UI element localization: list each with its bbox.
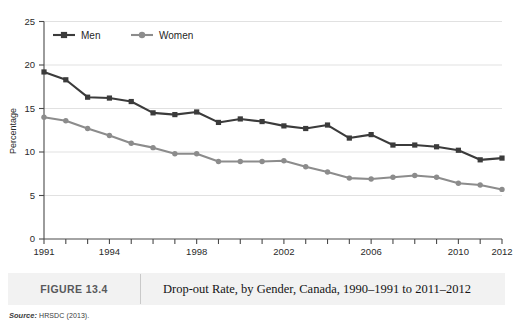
figure-caption-bar: FIGURE 13.4 Drop-out Rate, by Gender, Ca…: [8, 273, 505, 305]
data-point-men: [194, 109, 199, 114]
data-point-men: [325, 122, 330, 127]
data-point-men: [85, 95, 90, 100]
gridlines-group: [44, 22, 502, 196]
data-point-men: [369, 132, 374, 137]
data-point-women: [325, 169, 330, 174]
chart-canvas: 1991199419982002200620102012 0510152025 …: [0, 0, 513, 262]
data-point-women: [238, 159, 243, 164]
data-point-women: [41, 115, 46, 120]
series-group: [41, 69, 504, 192]
data-point-men: [478, 157, 483, 162]
line-chart: 1991199419982002200620102012 0510152025 …: [0, 0, 513, 262]
data-point-men: [390, 142, 395, 147]
data-point-women: [347, 175, 352, 180]
data-point-women: [150, 145, 155, 150]
data-point-women: [434, 175, 439, 180]
legend-label-women: Women: [159, 30, 193, 41]
figure-number-label: FIGURE 13.4: [8, 283, 140, 295]
x-tick-label: 1994: [99, 246, 120, 257]
data-point-men: [150, 110, 155, 115]
source-note: Source: HRSDC (2013).: [9, 311, 89, 320]
y-tick-label: 20: [24, 59, 35, 70]
legend-marker-women: [139, 32, 145, 38]
data-point-men: [456, 148, 461, 153]
data-point-women: [129, 141, 134, 146]
data-point-women: [107, 133, 112, 138]
data-point-women: [303, 164, 308, 169]
data-point-women: [368, 176, 373, 181]
x-tick-label: 2006: [361, 246, 382, 257]
data-point-women: [63, 118, 68, 123]
x-tick-label: 1998: [186, 246, 207, 257]
data-point-men: [238, 116, 243, 121]
source-label: Source:: [9, 311, 37, 320]
data-point-women: [194, 151, 199, 156]
data-point-women: [85, 126, 90, 131]
data-point-men: [347, 135, 352, 140]
data-point-men: [216, 120, 221, 125]
x-tick-label: 2010: [448, 246, 469, 257]
y-tick-label: 5: [30, 190, 35, 201]
y-tick-label: 10: [24, 146, 35, 157]
data-point-women: [390, 175, 395, 180]
data-point-women: [281, 158, 286, 163]
x-tick-label: 1991: [33, 246, 54, 257]
data-point-men: [412, 142, 417, 147]
axes-group: [44, 22, 502, 240]
data-point-men: [63, 77, 68, 82]
legend-marker-men: [61, 32, 67, 38]
chart-legend: MenWomen: [53, 30, 193, 41]
data-point-men: [303, 126, 308, 131]
data-point-men: [281, 123, 286, 128]
series-line-men: [44, 72, 502, 160]
figure-container: 1991199419982002200620102012 0510152025 …: [0, 0, 513, 330]
y-tick-label: 25: [24, 16, 35, 27]
data-point-women: [259, 159, 264, 164]
data-point-men: [172, 112, 177, 117]
series-line-women: [44, 117, 502, 189]
data-point-men: [259, 119, 264, 124]
data-point-men: [499, 155, 504, 160]
source-value: HRSDC (2013).: [39, 312, 89, 319]
data-point-women: [216, 159, 221, 164]
y-tick-label: 15: [24, 103, 35, 114]
x-tick-label: 2012: [491, 246, 512, 257]
figure-caption-text: Drop-out Rate, by Gender, Canada, 1990–1…: [141, 282, 505, 297]
y-tick-label: 0: [30, 233, 35, 244]
data-point-men: [107, 95, 112, 100]
data-point-women: [172, 151, 177, 156]
y-tick-group: 0510152025: [24, 16, 44, 245]
x-tick-group: 1991199419982002200620102012: [33, 239, 512, 257]
data-point-men: [129, 99, 134, 104]
data-point-women: [499, 187, 504, 192]
y-axis-label: Percentage: [8, 108, 18, 154]
legend-label-men: Men: [81, 30, 100, 41]
x-tick-label: 2002: [273, 246, 294, 257]
data-point-men: [41, 69, 46, 74]
data-point-women: [412, 173, 417, 178]
data-point-women: [456, 181, 461, 186]
data-point-women: [477, 182, 482, 187]
data-point-men: [434, 144, 439, 149]
